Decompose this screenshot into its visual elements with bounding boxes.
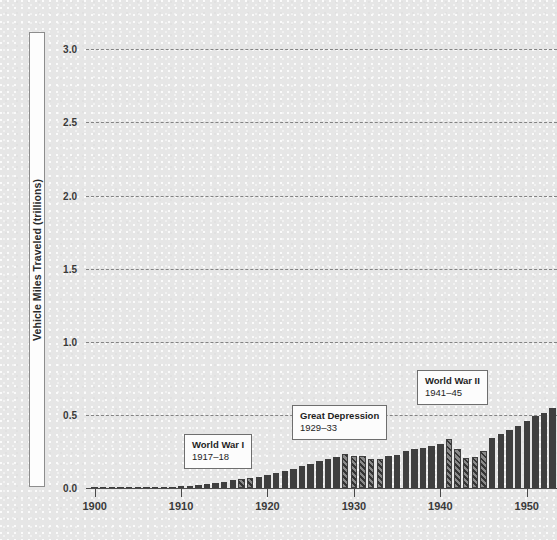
x-axis-tick-label: 1920 — [255, 500, 279, 512]
y-axis-tick-label: 2.0 — [63, 190, 77, 201]
y-axis-tick-label: 0.5 — [63, 409, 77, 420]
bar — [454, 449, 460, 488]
bar — [446, 439, 452, 488]
vehicle-miles-traveled-chart: Vehicle Miles Traveled (trillions) 0.00.… — [0, 0, 557, 540]
bar — [506, 430, 512, 488]
bar — [489, 438, 495, 488]
bar — [385, 456, 391, 488]
bar — [403, 451, 409, 488]
bar — [428, 446, 434, 488]
x-axis-tick-label: 1900 — [82, 500, 106, 512]
y-axis-label-text: Vehicle Miles Traveled (trillions) — [31, 178, 43, 340]
bar — [498, 434, 504, 488]
bar — [524, 421, 530, 488]
x-axis-tick-label: 1930 — [342, 500, 366, 512]
bar — [463, 458, 469, 488]
annotation-world-war-1: World War I1917–18 — [184, 434, 252, 469]
x-axis-tick — [527, 488, 528, 497]
y-axis-tick-label: 1.0 — [63, 336, 77, 347]
bar — [368, 459, 374, 488]
bar — [541, 413, 547, 488]
bar — [247, 478, 253, 488]
y-axis-tick-label: 2.5 — [63, 117, 77, 128]
x-axis-tick-label: 1950 — [515, 500, 539, 512]
bar — [299, 466, 305, 488]
bar — [532, 416, 538, 488]
bar — [377, 459, 383, 488]
bar — [411, 449, 417, 488]
annotation-world-war-2: World War II1941–45 — [417, 370, 488, 405]
bar — [273, 473, 279, 488]
bar — [316, 461, 322, 488]
bar — [394, 455, 400, 488]
bar — [256, 477, 262, 488]
bar — [307, 464, 313, 488]
annotation-title: Great Depression — [300, 410, 379, 422]
bar — [290, 469, 296, 488]
annotation-great-depression: Great Depression1929–33 — [292, 405, 387, 440]
y-axis-tick-label: 1.5 — [63, 263, 77, 274]
x-axis: 190019101920193019401950 — [86, 488, 557, 538]
annotation-title: World War II — [425, 375, 480, 387]
y-axis-tick-label: 0.0 — [63, 483, 77, 494]
bar — [480, 451, 486, 488]
bar — [351, 456, 357, 488]
bar — [437, 444, 443, 488]
bar — [282, 471, 288, 488]
y-axis-tick-label: 3.0 — [63, 44, 77, 55]
bar — [515, 426, 521, 488]
x-axis-tick — [95, 488, 96, 497]
bar — [238, 479, 244, 488]
x-axis-tick — [267, 488, 268, 497]
annotation-years: 1941–45 — [425, 387, 480, 399]
y-axis-label: Vehicle Miles Traveled (trillions) — [29, 32, 45, 487]
bar — [230, 480, 236, 488]
bar — [549, 408, 555, 488]
x-axis-tick-label: 1940 — [428, 500, 452, 512]
x-axis-tick-label: 1910 — [169, 500, 193, 512]
annotation-years: 1917–18 — [192, 451, 244, 463]
bar — [325, 459, 331, 488]
annotation-title: World War I — [192, 439, 244, 451]
bar — [359, 456, 365, 488]
x-axis-tick — [181, 488, 182, 497]
bar — [342, 454, 348, 488]
bar — [472, 457, 478, 488]
bar — [264, 475, 270, 488]
x-axis-tick — [354, 488, 355, 497]
bar — [420, 448, 426, 488]
bar — [333, 457, 339, 488]
annotation-years: 1929–33 — [300, 422, 379, 434]
x-axis-tick — [440, 488, 441, 497]
